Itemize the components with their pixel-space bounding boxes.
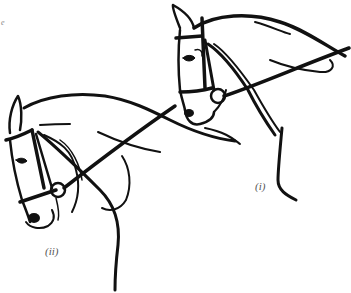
horse-i-drawing (173, 5, 349, 200)
label-horse-i: (i) (255, 180, 265, 192)
horse-bridle-illustration: e (0, 0, 351, 293)
label-horse-ii: (ii) (45, 245, 58, 257)
